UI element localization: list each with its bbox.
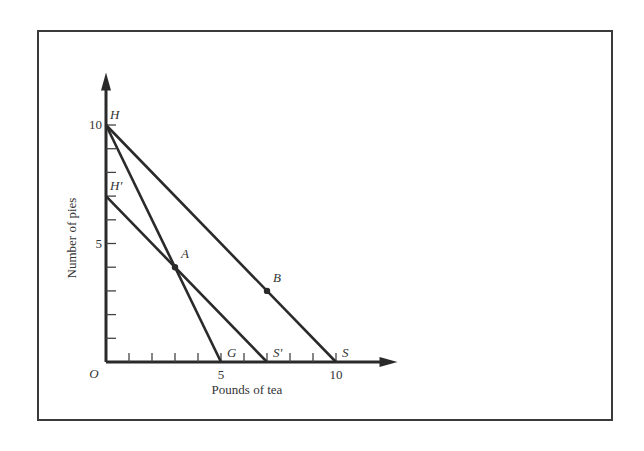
lines <box>106 125 336 362</box>
x-axis-arrow-icon <box>380 357 398 367</box>
chart: 510510ABHH'GS'S Pounds of tea Number of … <box>0 0 644 451</box>
y-tick-label: 5 <box>96 236 103 251</box>
y-tick-label: 10 <box>89 117 102 132</box>
point-a <box>172 264 178 270</box>
annotation-h: H <box>109 107 120 122</box>
origin-label: O <box>89 366 99 381</box>
series-line-hg <box>106 125 221 362</box>
y-axis-arrow-icon <box>101 72 111 90</box>
point-label-a: A <box>180 246 189 261</box>
x-axis-label: Pounds of tea <box>212 382 283 397</box>
x-tick-label: 5 <box>218 367 225 382</box>
axes <box>101 72 398 367</box>
annotation-s-prime: S' <box>273 345 283 360</box>
annotation-h-prime: H' <box>109 178 122 193</box>
annotation-g: G <box>227 345 237 360</box>
x-tick-label: 10 <box>330 367 343 382</box>
y-axis-label: Number of pies <box>64 198 79 279</box>
series-line-hprimes' <box>106 196 267 362</box>
point-b <box>264 288 270 294</box>
series-line-hs <box>106 125 336 362</box>
annotation-s: S <box>342 345 349 360</box>
point-label-b: B <box>273 270 281 285</box>
